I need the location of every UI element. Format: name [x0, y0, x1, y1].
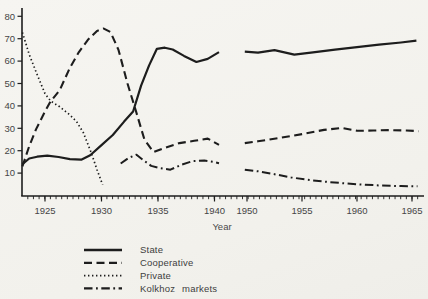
axes: 1020304050607080192519301935194019501955… [4, 8, 424, 232]
y-tick-label: 50 [4, 78, 15, 89]
x-tick-label: 1930 [91, 205, 112, 216]
series-kolkhoz-markets-line-seg2 [245, 170, 418, 187]
x-tick-label: 1960 [346, 205, 367, 216]
y-tick-label: 60 [4, 55, 15, 66]
legend: StateCooperativePrivateKolkhoz markets [84, 244, 217, 293]
y-tick-label: 70 [4, 33, 15, 44]
series-kolkhoz-markets-line-seg1 [121, 155, 219, 170]
series-cooperative-line-seg1 [22, 29, 219, 167]
series-state-line-seg1 [22, 48, 219, 164]
legend-label-state: State [140, 244, 163, 255]
x-tick-label: 1965 [401, 205, 422, 216]
x-tick-label: 1935 [147, 205, 168, 216]
chart-canvas: 1020304050607080192519301935194019501955… [0, 0, 428, 299]
y-tick-label: 20 [4, 145, 15, 156]
x-tick-label: 1940 [204, 205, 225, 216]
legend-label-cooperative: Cooperative [140, 257, 193, 268]
series-private-line [22, 32, 102, 184]
x-axis-title: Year [212, 221, 231, 232]
x-tick-label: 1950 [236, 205, 257, 216]
series-cooperative-line-seg2 [245, 128, 419, 143]
series-state-line-seg2 [245, 41, 417, 55]
y-tick-label: 30 [4, 123, 15, 134]
x-tick-label: 1955 [291, 205, 312, 216]
legend-label-private: Private [140, 270, 171, 281]
chart-figure: 1020304050607080192519301935194019501955… [0, 0, 428, 299]
x-tick-label: 1925 [34, 205, 55, 216]
legend-label-kolkhoz-markets: Kolkhoz markets [140, 283, 217, 294]
y-tick-label: 10 [4, 167, 15, 178]
series-lines [22, 29, 418, 187]
y-tick-label: 80 [4, 11, 15, 22]
y-tick-label: 40 [4, 100, 15, 111]
